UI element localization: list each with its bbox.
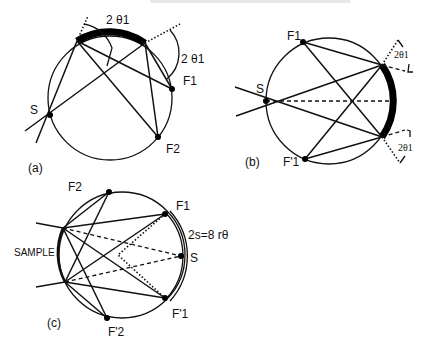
angle-bracket-bottom-b [407,130,410,137]
caption-b: (b) [245,155,260,169]
ray-f1-to-bottom [303,42,382,137]
angle-label-right-a: 2 θ1 [181,52,205,66]
focus-f1-point-a [169,86,175,92]
label-f1-b: F1 [287,29,301,43]
ray-bottom-to-f1 [65,214,165,282]
source-point-c [178,253,184,259]
dotted-v-path [118,214,165,298]
ray-bottom-to-f2 [65,192,109,282]
ray-s-to-sample-left [36,41,77,143]
caption-a: (a) [28,161,43,175]
panel-b: 2θ1 2θ1 F1 F'1 S (b) [235,29,413,169]
angle-bracket-top-b [408,64,413,72]
focus-f2-point-a [155,134,161,140]
incident-ray-bottom-c [36,282,65,287]
label-sample-c: SAMPLE [14,247,55,258]
caption-c: (c) [47,316,61,330]
angle-label-bottom-b: 2θ1 [398,142,413,153]
focus-f1p-point-b [302,156,308,162]
source-point-b [263,98,269,104]
label-s-c: S [190,251,198,265]
label-f1-a: F1 [183,74,197,88]
label-s-b: S [256,82,264,96]
label-f1-c: F1 [176,199,190,213]
label-f1p-c: F'1 [172,307,189,321]
angle-label-top-b: 2θ1 [394,49,409,60]
label-f2p-c: F'2 [108,325,125,339]
extension-dotted-right [145,24,180,43]
arc-formula-label: 2s=8 rθ [188,228,229,242]
angle-tick-top-b [398,40,403,47]
label-f1p-b: F'1 [283,155,300,169]
source-point-a [47,112,53,118]
angle-arc-right [167,30,179,79]
ray-s-to-sample-right [25,43,145,131]
panel-a: 2 θ1 2 θ1 F1 F2 S (a) [25,13,205,175]
focus-f1p-point-c [162,295,168,301]
angle-tick-bottom-b [400,156,405,163]
focus-f2-point-c [106,189,112,195]
angle-label-top-a: 2 θ1 [106,13,130,27]
focus-f2p-point-c [104,315,110,321]
sample-arc-c [58,228,65,282]
label-s-a: S [30,103,38,117]
label-f2-a: F2 [166,142,180,156]
focusing-geometry-figure: 2 θ1 2 θ1 F1 F2 S (a) 2θ1 2θ1 [0,0,422,349]
ray-left-to-f2 [77,41,158,137]
focus-f1-point-c [162,211,168,217]
incident-ray-top-c [36,223,63,228]
panel-c: F2 F1 2s=8 rθ S F'1 F'2 SAMPLE (c) [14,180,229,339]
label-f2-c: F2 [68,180,82,194]
